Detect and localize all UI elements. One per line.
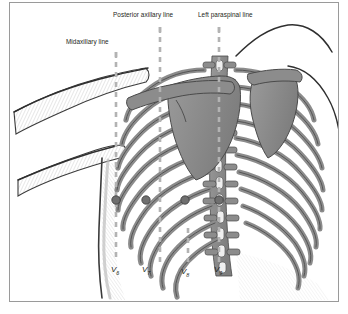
label-midaxillary-line: Midaxillary line — [66, 38, 109, 46]
label-posterior-axillary-line: Posterior axillary line — [113, 11, 173, 19]
electrode-v6 — [112, 196, 120, 204]
anatomy-figure: Posterior axillary line Left paraspinal … — [0, 0, 348, 314]
label-left-paraspinal-line: Left paraspinal line — [198, 11, 253, 19]
electrode-v8 — [181, 196, 189, 204]
label-electrode-v6: V6 — [111, 265, 119, 278]
label-electrode-v9: V9 — [214, 265, 222, 278]
label-electrode-v7: V7 — [142, 265, 150, 278]
label-electrode-v8: V8 — [181, 267, 189, 280]
anatomy-illustration — [0, 0, 348, 314]
electrode-v7 — [142, 196, 150, 204]
electrode-v9 — [215, 196, 223, 204]
